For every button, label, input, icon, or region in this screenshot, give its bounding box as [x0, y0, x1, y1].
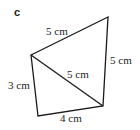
edge-label-bottom: 4 cm — [60, 112, 82, 124]
edge-label-right: 5 cm — [110, 54, 132, 66]
figure-tag: c — [14, 6, 20, 18]
edge-label-left: 3 cm — [8, 79, 30, 91]
edge-label-top: 5 cm — [46, 25, 68, 37]
edge-label-diagonal: 5 cm — [67, 68, 89, 80]
diagonal-line — [31, 55, 103, 106]
quadrilateral-diagram: c 5 cm 5 cm 5 cm 3 cm 4 cm — [0, 0, 140, 130]
